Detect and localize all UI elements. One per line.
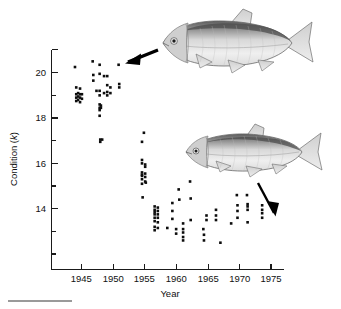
large-bodied-fish-illustration [163, 9, 313, 73]
data-point [91, 60, 94, 63]
data-point [79, 87, 82, 90]
y-axis-title-prefix: Condition ( [8, 139, 19, 186]
data-point [203, 239, 206, 242]
data-point [246, 203, 249, 206]
data-point [153, 205, 156, 208]
data-point [177, 188, 180, 191]
data-point [99, 141, 102, 144]
data-point [236, 194, 239, 197]
data-point [246, 205, 249, 208]
arrow-pointing-to-late-cluster [258, 183, 279, 217]
data-point [157, 206, 160, 209]
figure-panel: 20 18 16 14 1945 1950 1955 1960 1965 197… [0, 0, 341, 309]
data-point [202, 228, 205, 231]
x-tick-label-1970: 1970 [229, 273, 250, 284]
data-point [109, 92, 112, 95]
data-point [246, 209, 249, 212]
data-point [178, 198, 181, 201]
data-point [261, 204, 264, 207]
data-point [157, 227, 160, 230]
data-point [144, 172, 147, 175]
data-point [95, 90, 98, 93]
data-point [75, 86, 78, 89]
y-axis-ticks [52, 73, 58, 254]
data-point [205, 214, 208, 217]
data-point [153, 216, 156, 219]
data-point [215, 219, 218, 222]
data-point [236, 210, 239, 213]
data-point [101, 138, 104, 141]
data-point [98, 90, 101, 93]
data-point [92, 74, 95, 77]
data-point [153, 211, 156, 214]
data-point [182, 228, 185, 231]
data-point [141, 196, 144, 199]
data-point [98, 109, 101, 112]
data-point [171, 202, 174, 205]
data-point [141, 141, 144, 144]
data-point [106, 84, 109, 87]
data-point [118, 83, 121, 86]
data-point [261, 216, 264, 219]
data-point [175, 232, 178, 235]
data-point [189, 219, 192, 222]
data-point [117, 63, 120, 66]
data-point [236, 204, 239, 207]
x-tick-label-1965: 1965 [198, 273, 219, 284]
data-point [81, 97, 84, 100]
data-point [153, 226, 156, 229]
data-point [153, 220, 156, 223]
data-point [141, 178, 144, 181]
data-point [103, 75, 106, 78]
data-point [171, 218, 174, 221]
data-point [166, 227, 169, 230]
data-point [182, 236, 185, 239]
data-point [157, 210, 160, 213]
data-point [141, 182, 144, 185]
data-point [182, 231, 185, 234]
data-point [106, 91, 109, 94]
x-tick-label-1950: 1950 [103, 273, 124, 284]
y-tick-label-16: 16 [35, 158, 46, 169]
data-point [103, 92, 106, 95]
data-point [203, 233, 206, 236]
data-point [106, 94, 109, 97]
data-point [74, 66, 77, 69]
x-tick-labels: 1945 1950 1955 1960 1965 1970 1975 [71, 273, 282, 284]
data-point [175, 228, 178, 231]
data-point [157, 216, 160, 219]
x-axis-ticks [81, 264, 271, 270]
x-axis-title: Year [160, 288, 179, 299]
data-point [106, 75, 109, 78]
data-point [98, 63, 101, 66]
y-axis-title-suffix: ) [8, 132, 19, 135]
data-point [98, 114, 101, 117]
data-point [100, 107, 103, 110]
caption-rule-divider [8, 300, 72, 302]
data-point [153, 229, 156, 232]
data-point [98, 94, 101, 97]
data-point [219, 241, 222, 244]
arrow-pointing-to-early-cluster [125, 50, 158, 65]
data-point [143, 131, 146, 134]
data-point [215, 209, 218, 212]
data-point [141, 175, 144, 178]
x-tick-label-1955: 1955 [134, 273, 155, 284]
data-point [77, 99, 80, 102]
data-point [153, 209, 156, 212]
data-point [215, 214, 218, 217]
y-tick-label-14: 14 [35, 203, 46, 214]
x-tick-label-1945: 1945 [71, 273, 92, 284]
data-point [157, 213, 160, 216]
y-axis-title: Condition (k) [8, 132, 19, 186]
svg-text:Condition (k): Condition (k) [8, 132, 19, 186]
data-point [189, 197, 192, 200]
data-point [144, 165, 147, 168]
data-point [246, 194, 249, 197]
data-point [182, 222, 185, 225]
data-point [92, 79, 95, 82]
data-point [141, 159, 144, 162]
data-point [118, 86, 121, 89]
y-tick-label-20: 20 [35, 67, 46, 78]
y-tick-label-18: 18 [35, 112, 46, 123]
